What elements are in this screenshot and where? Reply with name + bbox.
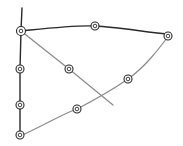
- node-n6: [16, 131, 24, 139]
- node-n7: [65, 65, 73, 73]
- sketch-diagram: [0, 0, 183, 146]
- node-n8: [124, 75, 132, 83]
- node-n5: [16, 101, 24, 109]
- node-n9: [73, 105, 81, 113]
- node-n4: [16, 65, 24, 73]
- node-n1: [17, 27, 26, 36]
- node-n2: [91, 22, 99, 30]
- diagram-nodes: [16, 22, 172, 139]
- edge-lower-curve: [20, 34, 170, 136]
- node-n3: [164, 32, 172, 40]
